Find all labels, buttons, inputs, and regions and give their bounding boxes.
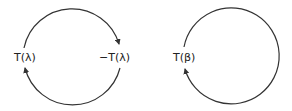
label-neg-t-lambda: −T(λ) (99, 52, 130, 63)
label-t-beta: T(β) (173, 52, 195, 63)
loop-arrow (184, 8, 279, 104)
top-arc-arrow (24, 9, 119, 48)
label-t-lambda: T(λ) (14, 52, 36, 63)
bottom-arc-arrow (25, 68, 120, 105)
cycle-diagram (0, 0, 292, 111)
